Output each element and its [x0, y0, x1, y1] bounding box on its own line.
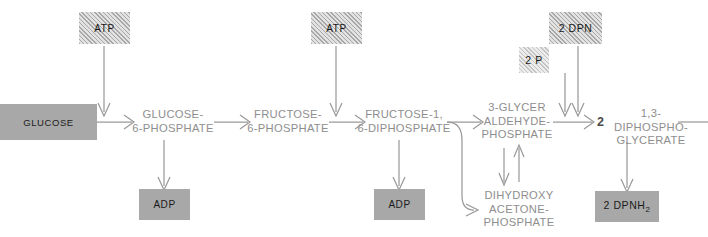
- chain-label-glucose-6-phosphate: GLUCOSE- 6-PHOSPHATE: [128, 108, 218, 135]
- input-label-phosphate: 2 P: [525, 54, 542, 66]
- input-label-dpn: 2 DPN: [559, 22, 593, 34]
- chain-coefficient-diphosphoglycerate: 2: [597, 115, 604, 129]
- glycolysis-diagram: ATP ATP 2 DPN 2 P GLUCOSE GLUCOSE- 6-PHO…: [0, 0, 708, 237]
- output-box-dpnh2: 2 DPNH2: [595, 191, 659, 222]
- input-label-atp-1: ATP: [94, 23, 114, 34]
- input-box-atp-2: ATP: [311, 12, 362, 44]
- output-label-dpnh2-subscript: 2: [645, 205, 650, 214]
- output-box-adp-2: ADP: [374, 189, 425, 220]
- chain-label-1-3-diphosphoglycerate: 1,3-DIPHOSPHO- GLYCERATE: [605, 107, 697, 148]
- chain-label-fructose-6-phosphate: FRUCTOSE- 6-PHOSPHATE: [243, 108, 333, 135]
- chain-label-3-glyceraldehyde-phosphate: 3-GLYCER ALDEHYDE- PHOSPHATE: [476, 101, 558, 142]
- input-box-atp-1: ATP: [79, 12, 130, 44]
- output-label-adp-2: ADP: [388, 199, 410, 210]
- branch-label-dihydroxyacetone-phosphate: DIHYDROXY ACETONE- PHOSPHATE: [476, 189, 562, 230]
- branch-f16dp-to-dhap: [447, 122, 474, 210]
- input-label-atp-2: ATP: [326, 23, 346, 34]
- output-box-adp-1: ADP: [139, 189, 190, 220]
- chain-box-glucose: GLUCOSE: [0, 104, 97, 140]
- input-box-dpn: 2 DPN: [549, 12, 602, 44]
- chain-label-glucose: GLUCOSE: [23, 117, 73, 128]
- chain-label-fructose-1-6-diphosphate: FRUCTOSE-1, 6-DIPHOSPHATE: [357, 108, 451, 135]
- output-label-dpnh2: 2 DPNH2: [604, 199, 651, 214]
- output-label-adp-1: ADP: [153, 199, 175, 210]
- input-box-phosphate: 2 P: [519, 47, 549, 73]
